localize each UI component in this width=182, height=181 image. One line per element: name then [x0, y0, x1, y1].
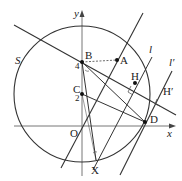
- label-circle-s: S: [15, 54, 21, 66]
- segment-cx: [82, 94, 96, 160]
- label-a: A: [120, 54, 128, 66]
- angle-mark-b: [85, 70, 89, 71]
- point-d: [143, 120, 147, 124]
- label-h-prime: H′: [163, 85, 173, 97]
- label-b-tick: 4: [75, 61, 80, 71]
- point-c: [80, 92, 84, 96]
- label-line-l-prime: l′: [169, 56, 175, 68]
- label-x: X: [91, 164, 99, 176]
- label-y-axis: y: [73, 7, 79, 19]
- point-a: [115, 58, 119, 62]
- point-b: [80, 60, 84, 64]
- segment-bx: [82, 62, 96, 160]
- label-x-axis: x: [166, 127, 172, 139]
- label-d: D: [150, 113, 158, 125]
- label-b: B: [85, 49, 92, 61]
- line-cd: [82, 94, 145, 122]
- line-bh: [14, 25, 176, 115]
- label-h: H: [131, 70, 139, 82]
- label-origin: O: [70, 127, 78, 139]
- geometry-diagram: S y x O B 4 C 2 A H H′ D X l l′: [0, 0, 182, 181]
- label-line-l: l: [149, 43, 152, 55]
- label-c-tick: 2: [75, 93, 80, 103]
